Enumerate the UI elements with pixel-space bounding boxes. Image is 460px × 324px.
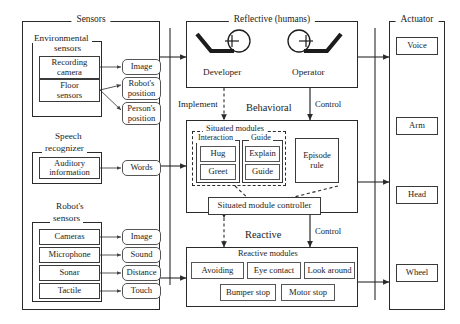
touch-output-label: Touch [131, 286, 152, 295]
recording-camera-label-line2: camera [57, 68, 82, 77]
auditory-information-box[interactable]: Auditory information [39, 157, 100, 179]
environmental-sensors-title-line2: sensors [51, 43, 84, 53]
guide-module-box[interactable]: Guide [245, 164, 280, 180]
actuator-title: Actuator [396, 14, 439, 25]
situated-module-controller-box[interactable]: Situated module controller [208, 197, 321, 215]
image-sensor-output-box[interactable]: Image [122, 229, 161, 245]
motor-stop-module-label: Motor stop [289, 288, 327, 297]
look-around-module-box[interactable]: Look around [304, 262, 355, 279]
sound-output-label: Sound [131, 250, 153, 259]
head-actuator-box[interactable]: Head [396, 186, 438, 204]
floor-sensors-box[interactable]: Floor sensors [39, 79, 100, 102]
person-position-output-box[interactable]: Person's position [122, 102, 161, 125]
bumper-stop-module-box[interactable]: Bumper stop [220, 284, 276, 301]
tactile-box[interactable]: Tactile [39, 283, 100, 299]
control-behavioral-edge-label: Control [315, 99, 341, 109]
sound-output-box[interactable]: Sound [122, 247, 161, 263]
guide-module-label: Guide [252, 167, 273, 176]
auditory-information-label-line2: information [49, 168, 90, 177]
avoiding-module-label: Avoiding [202, 266, 234, 275]
developer-label: Developer [203, 67, 241, 77]
recording-camera-box[interactable]: Recording camera [39, 56, 100, 79]
eye-contact-module-label: Eye contact [254, 266, 294, 275]
hug-module-box[interactable]: Hug [200, 146, 236, 162]
motor-stop-module-box[interactable]: Motor stop [281, 284, 335, 301]
greet-module-box[interactable]: Greet [200, 164, 236, 180]
sonar-box[interactable]: Sonar [39, 265, 100, 281]
control-reactive-edge-label: Control [315, 226, 341, 236]
sensors-title: Sensors [71, 14, 110, 25]
wheel-actuator-label: Wheel [406, 268, 428, 277]
operator-label: Operator [292, 67, 325, 77]
greet-module-label: Greet [208, 167, 227, 176]
implement-edge-label: Implement [178, 99, 218, 109]
head-actuator-label: Head [408, 190, 426, 199]
episode-rule-label-line2: rule [310, 161, 323, 170]
microphone-box[interactable]: Microphone [39, 247, 100, 263]
distance-output-box[interactable]: Distance [122, 265, 161, 281]
developer-person-seated-icon [192, 28, 256, 64]
speech-recognizer-title-line1: Speech [52, 131, 85, 141]
arm-actuator-label: Arm [409, 121, 425, 130]
hug-module-label: Hug [211, 149, 226, 158]
words-output-box[interactable]: Words [122, 160, 161, 176]
microphone-label: Microphone [48, 250, 90, 259]
words-output-label: Words [130, 163, 152, 172]
cameras-label: Cameras [54, 232, 84, 241]
reflective-title: Reflective (humans) [229, 14, 315, 25]
robot-position-label-line2: position [128, 89, 156, 98]
image-output-label: Image [131, 62, 152, 71]
explain-module-box[interactable]: Explain [245, 146, 280, 162]
situated-module-controller-label: Situated module controller [218, 201, 312, 210]
reactive-modules-group-title: Reactive modules [238, 249, 298, 259]
bumper-stop-module-label: Bumper stop [226, 288, 270, 297]
explain-module-label: Explain [249, 149, 276, 158]
voice-actuator-box[interactable]: Voice [396, 37, 438, 55]
look-around-module-label: Look around [307, 266, 351, 275]
cameras-box[interactable]: Cameras [39, 229, 100, 245]
distance-output-label: Distance [126, 268, 156, 277]
tactile-label: Tactile [58, 286, 81, 295]
robot-sensors-title-line2: sensors [50, 213, 83, 223]
episode-rule-box[interactable]: Episode rule [295, 138, 339, 183]
touch-output-box[interactable]: Touch [122, 283, 161, 299]
wheel-actuator-box[interactable]: Wheel [396, 264, 438, 282]
arm-actuator-box[interactable]: Arm [396, 117, 438, 135]
voice-actuator-label: Voice [407, 41, 426, 50]
sonar-label: Sonar [59, 268, 79, 277]
floor-sensors-label-line2: sensors [57, 91, 82, 100]
environmental-sensors-title-line1: Environmental [31, 33, 92, 43]
image-sensor-output-label: Image [131, 232, 152, 241]
avoiding-module-box[interactable]: Avoiding [191, 262, 244, 279]
behavioral-title: Behavioral [246, 103, 292, 113]
interaction-subgroup-title: Interaction [196, 133, 235, 143]
operator-person-seated-icon [282, 28, 346, 64]
person-position-label-line2: position [128, 114, 156, 123]
eye-contact-module-box[interactable]: Eye contact [247, 262, 301, 279]
speech-recognizer-title-line2: recognizer [42, 143, 87, 153]
reactive-title: Reactive [245, 230, 281, 240]
diagram-canvas: Sensors Environmental sensors Recording … [0, 0, 460, 324]
robot-sensors-title-line1: Robot's [53, 201, 87, 211]
guide-subgroup-title: Guide [249, 133, 273, 143]
image-output-box[interactable]: Image [122, 59, 161, 75]
robot-position-output-box[interactable]: Robot's position [122, 77, 161, 100]
